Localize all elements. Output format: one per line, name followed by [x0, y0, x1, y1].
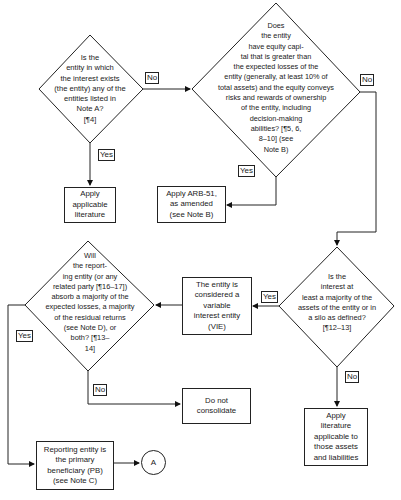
label-q3-yes: Yes [261, 291, 278, 303]
process-apply-literature-assets: Apply literature applicable to those ass… [304, 408, 368, 466]
decision-q4-text: Will the report- ing entity (or any rela… [30, 251, 150, 354]
label-q4-yes: Yes [16, 330, 33, 342]
process-vie: The entity is considered a variable inte… [182, 277, 252, 335]
process-apply-applicable-literature: Apply applicable literature [64, 187, 116, 223]
label-q2-yes: Yes [238, 165, 255, 177]
process-apply-arb51: Apply ARB-51, as amended (see Note B) [157, 186, 226, 223]
decision-q3-text: Is the interest at least a majority of t… [283, 272, 391, 334]
decision-q2-text: Does the entity have equity capi- tal th… [200, 21, 352, 155]
connector-a: A [141, 450, 166, 475]
label-q1-yes: Yes [98, 149, 115, 161]
process-primary-beneficiary: Reporting entity is the primary benefici… [36, 441, 114, 490]
label-q4-no: No [93, 384, 107, 396]
label-q1-no: No [145, 72, 159, 84]
decision-q1-text: Is the entity in which the interest exis… [42, 53, 138, 125]
label-q2-no: No [360, 74, 374, 86]
label-q3-no: No [345, 371, 359, 383]
process-do-not-consolidate: Do not consolidate [182, 388, 251, 424]
